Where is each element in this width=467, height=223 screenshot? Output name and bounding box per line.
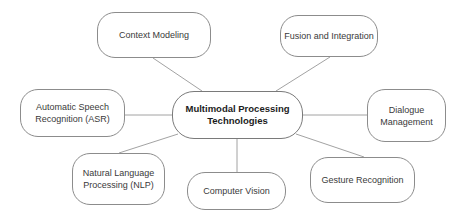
node-asr: Automatic Speech Recognition (ASR) <box>20 89 125 137</box>
node-center-multimodal-processing: Multimodal Processing Technologies <box>172 91 303 139</box>
node-label: Automatic Speech Recognition (ASR) <box>35 101 110 125</box>
node-label: Dialogue Management <box>380 104 433 128</box>
node-label: Computer Vision <box>203 185 269 197</box>
edge-gesture-recognition <box>296 134 364 157</box>
node-label: Natural Language Processing (NLP) <box>83 167 155 191</box>
edge-fusion-integration <box>276 57 330 91</box>
node-gesture-recognition: Gesture Recognition <box>310 157 415 203</box>
node-label: Gesture Recognition <box>321 174 403 186</box>
center-label: Multimodal Processing Technologies <box>186 103 290 128</box>
node-context-modeling: Context Modeling <box>97 12 211 58</box>
mind-map-diagram: Context Modeling Fusion and Integration … <box>0 0 467 223</box>
node-dialogue-management: Dialogue Management <box>367 89 446 142</box>
node-computer-vision: Computer Vision <box>187 172 286 210</box>
edge-nlp <box>119 134 178 153</box>
node-nlp: Natural Language Processing (NLP) <box>72 153 165 205</box>
node-label: Fusion and Integration <box>284 30 374 42</box>
node-label: Context Modeling <box>119 29 189 41</box>
node-fusion-integration: Fusion and Integration <box>280 15 378 57</box>
edge-context-modeling <box>153 58 202 91</box>
